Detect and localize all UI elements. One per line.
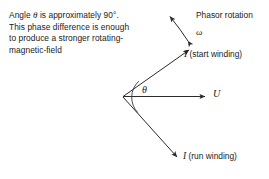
start-winding-text: (start winding) [190, 49, 243, 59]
phasor-diagram-figure: Angle θ is approximately 90°. This phase… [0, 0, 269, 179]
run-winding-phasor-arrow [123, 97, 177, 157]
voltage-label: U [213, 89, 220, 99]
current-symbol-run: I [183, 151, 186, 161]
theta-angle-label: θ [142, 85, 147, 95]
phasor-rotation-arrow [170, 17, 188, 42]
run-winding-text: (run winding) [189, 151, 237, 161]
omega-label: ω [196, 28, 202, 37]
start-winding-label: I (start winding) [184, 50, 242, 60]
angle-note-text: Angle θ is approximately 90°. This phase… [9, 10, 131, 56]
phasor-rotation-label: Phasor rotation [196, 11, 253, 19]
run-winding-label: I (run winding) [183, 152, 237, 162]
note-prefix: Angle [9, 10, 33, 20]
current-symbol-start: I [184, 49, 187, 59]
